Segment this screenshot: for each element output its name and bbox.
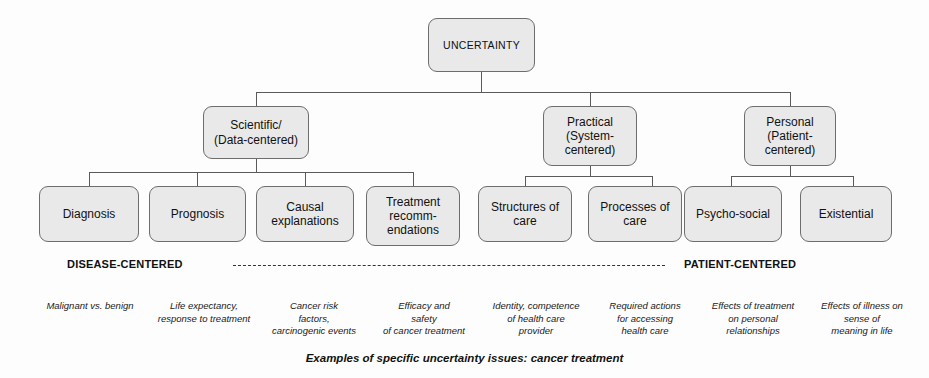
diagram-canvas: UNCERTAINTY Scientific/ (Data-centered) …: [0, 0, 929, 378]
node-structures-of-care[interactable]: Structures of care: [478, 186, 572, 242]
axis-dashed-line: [233, 265, 665, 266]
node-uncertainty[interactable]: UNCERTAINTY: [428, 18, 535, 72]
example-text-treatment-recommendations: Efficacy and safety of cancer treatment: [362, 300, 486, 338]
node-label: Existential: [816, 207, 877, 221]
node-label: Diagnosis: [60, 207, 119, 221]
example-text-psycho-social: Effects of treatment on personal relatio…: [688, 300, 818, 338]
axis-label-disease-centered: DISEASE-CENTERED: [67, 258, 183, 270]
node-label: Psycho-social: [693, 207, 773, 221]
node-label: UNCERTAINTY: [440, 39, 523, 51]
node-scientific-data-centered[interactable]: Scientific/ (Data-centered): [203, 106, 309, 159]
node-processes-of-care[interactable]: Processes of care: [588, 186, 682, 242]
example-text-existential: Effects of illness on sense of meaning i…: [800, 300, 924, 338]
node-label: Prognosis: [168, 207, 227, 221]
node-treatment-recommendations[interactable]: Treatment recomm- endations: [366, 186, 460, 246]
node-label: Scientific/ (Data-centered): [211, 118, 301, 146]
node-label: Causal explanations: [268, 200, 341, 228]
node-label: Structures of care: [488, 200, 562, 228]
node-causal-explanations[interactable]: Causal explanations: [256, 186, 354, 242]
example-text-causal-explanations: Cancer risk factors, carcinogenic events: [252, 300, 376, 338]
node-personal-patient-centered[interactable]: Personal (Patient- centered): [744, 106, 836, 166]
node-practical-system-centered[interactable]: Practical (System- centered): [543, 106, 637, 166]
axis-label-patient-centered: PATIENT-CENTERED: [684, 258, 796, 270]
node-existential[interactable]: Existential: [800, 186, 892, 242]
node-psycho-social[interactable]: Psycho-social: [684, 186, 782, 242]
node-prognosis[interactable]: Prognosis: [149, 186, 246, 242]
node-label: Processes of care: [597, 200, 672, 228]
node-label: Personal (Patient- centered): [762, 115, 819, 157]
diagram-caption: Examples of specific uncertainty issues:…: [0, 352, 929, 364]
node-diagnosis[interactable]: Diagnosis: [39, 186, 139, 242]
example-text-diagnosis: Malignant vs. benign: [28, 300, 152, 313]
example-text-prognosis: Life expectancy, response to treatment: [142, 300, 266, 325]
node-label: Practical (System- centered): [562, 115, 619, 157]
node-label: Treatment recomm- endations: [383, 195, 443, 237]
